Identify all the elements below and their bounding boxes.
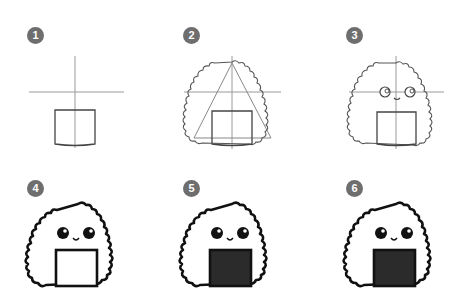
right-eye — [237, 227, 249, 239]
step-panel-5: 5 — [155, 153, 310, 306]
right-eye — [83, 227, 95, 239]
left-eye — [57, 227, 69, 239]
step-4-drawing — [0, 153, 155, 306]
step-1-drawing — [0, 0, 155, 153]
step-5-drawing — [155, 153, 310, 306]
rice-outline-sketch — [183, 61, 268, 145]
right-eye — [401, 227, 413, 239]
rice-outline-sketch — [347, 62, 432, 146]
step-panel-4: 4 — [0, 153, 155, 306]
step-panel-1: 1 — [0, 0, 155, 153]
step-3-drawing — [310, 0, 463, 153]
step-2-drawing — [155, 0, 310, 153]
step-6-drawing — [310, 153, 463, 306]
step-panel-6: 6 — [310, 153, 463, 306]
nori-filled — [374, 250, 415, 286]
left-eye — [375, 227, 387, 239]
smile-sketch — [394, 98, 400, 100]
left-eye — [211, 227, 223, 239]
step-panel-2: 2 — [155, 0, 310, 153]
step-panel-3: 3 — [310, 0, 463, 153]
nori-filled — [210, 250, 251, 286]
nori-rectangle — [56, 250, 97, 286]
